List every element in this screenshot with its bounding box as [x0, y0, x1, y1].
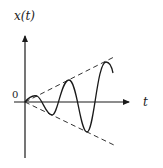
oscillation-curve	[25, 62, 113, 132]
y-axis-label: x(t)	[14, 9, 35, 23]
origin-label: 0	[12, 89, 18, 100]
x-axis-label: t	[143, 95, 148, 109]
oscillation-diagram: x(t) t 0	[0, 0, 163, 168]
lower-envelope-line	[25, 102, 116, 146]
upper-envelope-line	[25, 56, 116, 102]
